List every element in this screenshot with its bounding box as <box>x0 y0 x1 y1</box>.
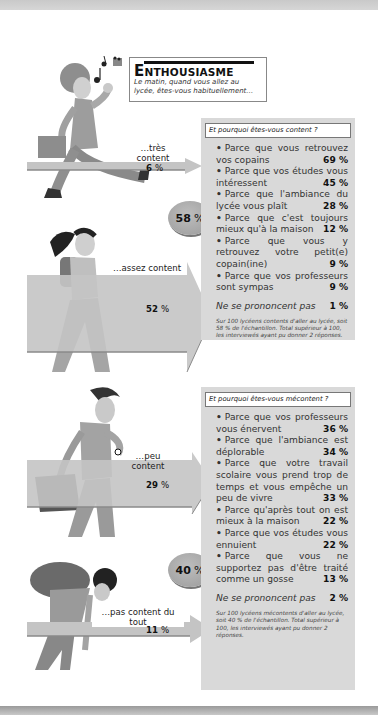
reason-item: •Parce qu'après tout on est mieux à la m… <box>216 505 348 528</box>
top-border <box>0 0 378 10</box>
response-label-tres-content: …très content <box>133 143 173 163</box>
title-rule <box>144 61 254 64</box>
response-pct-tres-content: 6 % <box>146 163 163 173</box>
no-answer-mecontent: Ne se prononcent pas2 % <box>205 592 351 604</box>
response-label-pas-content: …pas content du tout <box>92 607 184 627</box>
page-title: ENTHOUSIASME <box>134 65 262 78</box>
response-label-assez-content: …assez content <box>112 263 182 273</box>
reasons-list-content: •Parce que vous retrouvez vos copains 69… <box>205 143 351 294</box>
reason-item: •Parce que vos études vous ennuient 22 % <box>216 528 348 551</box>
arrow-tres-content <box>27 158 202 176</box>
reason-item: •Parce que vous ne supportez pas d'être … <box>216 551 348 586</box>
music-notes-icon <box>94 56 122 83</box>
response-label-peu-content: …peu content <box>118 451 178 471</box>
page-subtitle: Le matin, quand vous allez au lycée, ête… <box>134 78 262 95</box>
question-content: Et pourquoi êtes-vous content ? <box>205 123 351 138</box>
reason-item: •Parce que vos études vous intéressent 4… <box>216 166 348 189</box>
reason-item: •Parce que vous retrouvez vos copains 69… <box>216 143 348 166</box>
panel-reasons-content: Et pourquoi êtes-vous content ? •Parce q… <box>201 118 355 340</box>
reasons-list-mecontent: •Parce que vos professeurs vous énervent… <box>205 412 351 586</box>
reason-item: •Parce que l'ambiance du lycée vous plaî… <box>216 189 348 212</box>
reason-item: •Parce que c'est toujours mieux qu'à la … <box>216 213 348 236</box>
footnote-content: Sur 100 lycéens contents d'aller au lycé… <box>205 318 351 340</box>
arrow-assez-content <box>27 262 212 372</box>
reason-item: •Parce que vos professeurs vous énervent… <box>216 412 348 435</box>
reason-item: •Parce que vos professeurs sont sympas 9… <box>216 271 348 294</box>
response-pct-pas-content: 11 % <box>146 625 169 635</box>
bottom-border <box>0 706 378 715</box>
reason-item: •Parce que vous y retrouvez votre petit(… <box>216 236 348 271</box>
response-pct-assez-content: 52 % <box>146 304 169 314</box>
reason-item: •Parce que votre travail scolaire vous p… <box>216 458 348 504</box>
response-pct-peu-content: 29 % <box>146 480 169 490</box>
reason-item: •Parce que l'ambiance est déplorable 34 … <box>216 435 348 458</box>
no-answer-content: Ne se prononcent pas1 % <box>205 300 351 312</box>
question-mecontent: Et pourquoi êtes-vous mécontent ? <box>205 392 351 407</box>
footnote-mecontent: Sur 100 lycéens mécontents d'aller au ly… <box>205 610 351 639</box>
panel-reasons-mecontent: Et pourquoi êtes-vous mécontent ? •Parce… <box>201 387 355 690</box>
